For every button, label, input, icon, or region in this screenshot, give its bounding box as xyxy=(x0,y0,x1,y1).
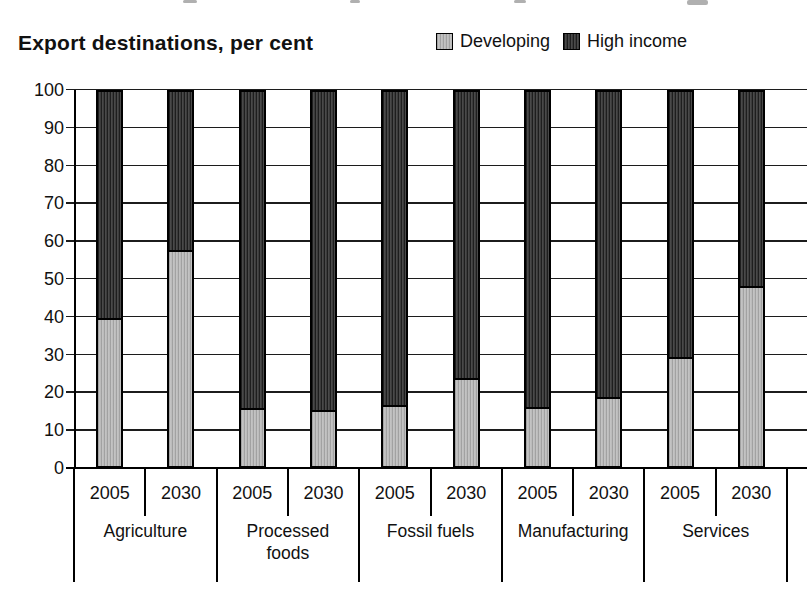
category-label-text: Fossil fuels xyxy=(387,520,475,542)
y-tick-label: 10 xyxy=(0,419,64,441)
cropped-text-artifact xyxy=(350,0,360,3)
segment-high-income xyxy=(453,90,480,379)
year-label-manufacturing-2005: 2005 xyxy=(502,468,573,516)
year-label-processed-foods-2030: 2030 xyxy=(288,468,359,516)
y-tick-label: 70 xyxy=(0,192,64,214)
segment-high-income xyxy=(239,90,266,409)
legend-label: Developing xyxy=(460,31,550,52)
category-label-services: Services xyxy=(644,520,787,542)
y-tick-label: 0 xyxy=(0,457,64,479)
bar-manufacturing-2005 xyxy=(524,90,551,468)
segment-high-income xyxy=(381,90,408,406)
y-tick-label: 20 xyxy=(0,381,64,403)
category-label-processed-foods: Processed foods xyxy=(217,520,360,564)
bar-processed-foods-2030 xyxy=(310,90,337,468)
bar-group-processed-foods xyxy=(217,90,360,468)
y-tick-label: 90 xyxy=(0,117,64,139)
year-label-services-2005: 2005 xyxy=(644,468,715,516)
segment-high-income xyxy=(310,90,337,411)
segment-developing xyxy=(96,319,123,468)
category-label-text: Agriculture xyxy=(103,520,187,542)
y-axis-line xyxy=(74,90,76,468)
bar-group-manufacturing xyxy=(502,90,645,468)
bar-group-agriculture xyxy=(74,90,217,468)
legend-item-high-income: High income xyxy=(563,31,687,52)
category-label-text: Processed foods xyxy=(231,520,345,564)
segment-developing xyxy=(310,411,337,468)
category-label-manufacturing: Manufacturing xyxy=(502,520,645,542)
year-label-fossil-fuels-2030: 2030 xyxy=(431,468,502,516)
y-axis-labels: 1009080706050403020100 xyxy=(0,90,64,468)
bar-manufacturing-2030 xyxy=(595,90,622,468)
segment-developing xyxy=(167,251,194,468)
cropped-text-artifact xyxy=(183,0,197,3)
y-tick-label: 50 xyxy=(0,268,64,290)
segment-developing xyxy=(524,408,551,468)
y-tick-label: 30 xyxy=(0,344,64,366)
bar-fossil-fuels-2030 xyxy=(453,90,480,468)
segment-high-income xyxy=(667,90,694,358)
year-label-services-2030: 2030 xyxy=(716,468,787,516)
bar-services-2005 xyxy=(667,90,694,468)
segment-developing xyxy=(381,406,408,468)
chart-legend: Developing High income xyxy=(436,31,687,52)
bar-fossil-fuels-2005 xyxy=(381,90,408,468)
year-label-manufacturing-2030: 2030 xyxy=(573,468,644,516)
bar-group-fossil-fuels xyxy=(359,90,502,468)
bar-group-services xyxy=(644,90,787,468)
category-label-text: Manufacturing xyxy=(518,520,629,542)
segment-developing xyxy=(738,287,765,468)
segment-high-income xyxy=(167,90,194,251)
y-tick-label: 100 xyxy=(0,79,64,101)
bar-services-2030 xyxy=(738,90,765,468)
y-tick-label: 40 xyxy=(0,306,64,328)
segment-high-income xyxy=(96,90,123,319)
developing-swatch-icon xyxy=(436,33,453,50)
bars-area xyxy=(74,90,787,468)
segment-developing xyxy=(453,379,480,468)
year-label-agriculture-2030: 2030 xyxy=(145,468,216,516)
x-axis-labels: 20052030Agriculture20052030Processed foo… xyxy=(74,468,787,582)
segment-high-income xyxy=(738,90,765,287)
segment-developing xyxy=(667,358,694,468)
bar-agriculture-2030 xyxy=(167,90,194,468)
segment-high-income xyxy=(524,90,551,408)
segment-developing xyxy=(595,398,622,468)
cropped-text-artifact xyxy=(687,0,708,5)
y-tick-label: 80 xyxy=(0,155,64,177)
year-label-fossil-fuels-2005: 2005 xyxy=(359,468,430,516)
chart-title: Export destinations, per cent xyxy=(18,31,313,55)
year-label-agriculture-2005: 2005 xyxy=(74,468,145,516)
high-income-swatch-icon xyxy=(563,33,580,50)
year-label-processed-foods-2005: 2005 xyxy=(217,468,288,516)
bar-processed-foods-2005 xyxy=(239,90,266,468)
legend-item-developing: Developing xyxy=(436,31,550,52)
legend-label: High income xyxy=(587,31,687,52)
category-label-fossil-fuels: Fossil fuels xyxy=(359,520,502,542)
category-label-agriculture: Agriculture xyxy=(74,520,217,542)
bar-agriculture-2005 xyxy=(96,90,123,468)
segment-high-income xyxy=(595,90,622,398)
y-tick-label: 60 xyxy=(0,230,64,252)
cropped-text-artifact xyxy=(514,0,526,3)
category-label-text: Services xyxy=(682,520,749,542)
segment-developing xyxy=(239,409,266,468)
plot-area xyxy=(74,90,807,468)
figure-export-destinations: Export destinations, per cent Developing… xyxy=(0,0,811,615)
